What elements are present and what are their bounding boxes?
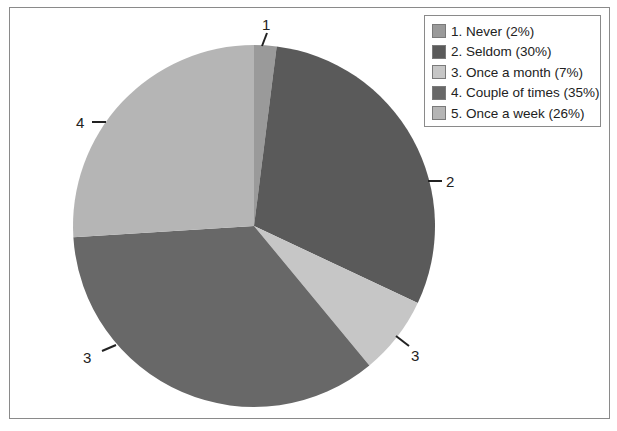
leader-line-once-a-month [396, 336, 409, 346]
data-label-seldom: 2 [446, 173, 454, 190]
legend-label: 4. Couple of times (35%) [451, 85, 600, 100]
data-label-once-a-month: 3 [411, 347, 419, 364]
legend-item-seldom: 2. Seldom (30%) [432, 42, 600, 63]
legend-swatch [432, 65, 446, 79]
data-label-never: 1 [262, 16, 270, 33]
data-label-once-a-week: 4 [76, 114, 84, 131]
leader-line-never [262, 33, 267, 46]
leader-line-couple-of-times [102, 345, 116, 351]
legend-label: 3. Once a month (7%) [451, 65, 583, 80]
legend-item-never: 1. Never (2%) [432, 21, 600, 42]
legend-swatch [432, 86, 446, 100]
pie-slice-once-a-week [73, 45, 254, 237]
pie-slices [73, 45, 435, 407]
legend-swatch [432, 106, 446, 120]
data-label-couple-of-times: 3 [83, 349, 91, 366]
legend-item-once-a-week: 5. Once a week (26%) [432, 103, 600, 124]
legend-item-couple-of-times: 4. Couple of times (35%) [432, 83, 600, 104]
legend-swatch [432, 24, 446, 38]
legend-label: 1. Never (2%) [451, 24, 534, 39]
legend-item-once-a-month: 3. Once a month (7%) [432, 62, 600, 83]
legend-swatch [432, 45, 446, 59]
legend-label: 5. Once a week (26%) [451, 106, 585, 121]
legend-label: 2. Seldom (30%) [451, 44, 552, 59]
chart-legend: 1. Never (2%) 2. Seldom (30%) 3. Once a … [424, 15, 601, 127]
